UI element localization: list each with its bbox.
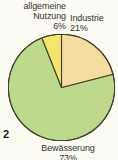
pie-label-industry-line1: Industrie (70, 13, 118, 23)
pie-label-irrigation: Bewässerung 73% (20, 143, 116, 160)
pie-label-general-use-line1: allgemeine (0, 1, 66, 11)
figure-container: allgemeine Nutzung 6% Industrie 21% Bewä… (0, 0, 118, 160)
pie-label-general-use-value: 6% (0, 21, 66, 31)
pie-chart-svg (8, 34, 115, 141)
pie-label-industry-value: 21% (70, 23, 118, 33)
pie-label-irrigation-value: 73% (20, 153, 116, 160)
figure-number: 2 (3, 128, 9, 140)
pie-chart (8, 34, 115, 141)
pie-label-irrigation-line1: Bewässerung (20, 143, 116, 153)
pie-label-general-use: allgemeine Nutzung 6% (0, 1, 66, 31)
pie-label-general-use-line2: Nutzung (0, 11, 66, 21)
pie-label-industry: Industrie 21% (70, 13, 118, 33)
